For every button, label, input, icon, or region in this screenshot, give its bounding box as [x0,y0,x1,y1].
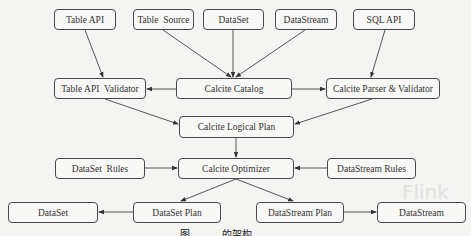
node-label: Table Source [137,15,189,25]
node-calcite-logical-plan: Calcite Logical Plan [179,116,294,138]
node-label: Table API [66,15,104,25]
node-label: Calcite Optimizer [202,164,270,174]
node-table-api: Table API [54,9,116,30]
node-calcite-optimizer: Calcite Optimizer [178,158,294,179]
node-table-source: Table Source [133,9,194,30]
node-label: Calcite Logical Plan [198,122,276,132]
node-label: DataSet [38,208,68,218]
node-sql-api: SQL API [353,9,415,30]
node-dataset-rules: DataSet Rules [55,158,145,179]
node-dataset-output: DataSet [8,202,98,223]
node-label: Calcite Catalog [205,84,264,94]
node-label: SQL API [367,15,402,25]
figure-caption: 图 的架构 [180,226,252,236]
node-table-api-validator: Table API Validator [54,78,146,99]
node-label: Table API Validator [61,84,139,94]
node-datastream-source: DataStream [275,9,337,30]
node-label: DataStream [284,15,329,25]
node-datastream-rules: DataStream Rules [327,158,416,179]
node-label: DataStream Plan [268,208,332,218]
node-label: DataSet Plan [152,208,201,218]
node-datastream-output: DataStream [377,202,466,223]
node-calcite-parser-validator: Calcite Parser & Validator [326,78,440,99]
node-label: DataSet [218,15,248,25]
node-label: DataStream [399,208,444,218]
node-label: DataSet Rules [72,164,128,174]
node-label: DataStream Rules [337,164,406,174]
node-dataset-source: DataSet [203,9,264,30]
node-calcite-catalog: Calcite Catalog [176,78,292,99]
node-dataset-plan: DataSet Plan [133,202,221,223]
node-datastream-plan: DataStream Plan [256,202,344,223]
node-label: Calcite Parser & Validator [333,84,433,94]
